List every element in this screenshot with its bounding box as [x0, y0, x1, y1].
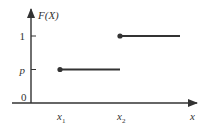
closed-point-1 — [57, 67, 62, 72]
y-axis-label: F(X) — [37, 9, 59, 22]
x-axis-label: x — [189, 110, 195, 122]
x-tick-label: x2 — [116, 110, 126, 125]
x-tick-subscript: 2 — [122, 117, 126, 125]
cdf-chart: p1 x1x2 F(X) x 0 — [0, 0, 213, 126]
x-tick-subscript: 1 — [62, 117, 66, 125]
y-tick-label: p — [19, 64, 26, 76]
origin-label: 0 — [21, 91, 27, 103]
x-tick-label: x1 — [56, 110, 66, 125]
closed-point-2 — [117, 33, 122, 38]
y-tick-label: 1 — [20, 30, 26, 42]
